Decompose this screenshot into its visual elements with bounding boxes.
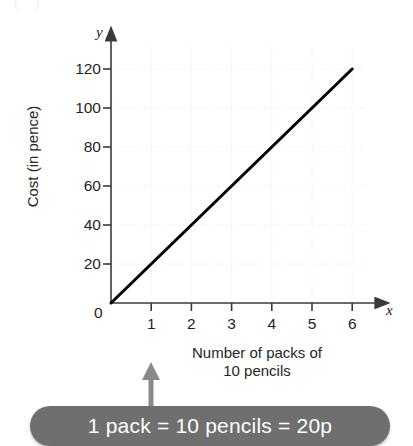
y-tick-labels: 20406080100120 <box>55 0 101 443</box>
x-tick-label-1: 1 <box>139 316 163 332</box>
x-tick-label-4: 4 <box>260 316 284 332</box>
y-tick-label-60: 60 <box>57 178 101 194</box>
origin-label: 0 <box>94 304 103 322</box>
x-axis-title-line-2: 10 pencils <box>152 362 362 380</box>
x-tick-marks <box>151 303 352 311</box>
callout-banner-text: 1 pack = 10 pencils = 20p <box>30 406 390 446</box>
x-tick-label-3: 3 <box>220 316 244 332</box>
y-tick-label-20: 20 <box>57 256 101 272</box>
x-tick-label-6: 6 <box>340 316 364 332</box>
x-axis-title: Number of packs of 10 pencils <box>152 344 362 380</box>
y-tick-label-80: 80 <box>57 139 101 155</box>
y-tick-label-40: 40 <box>57 217 101 233</box>
y-tick-label-120: 120 <box>57 61 101 77</box>
y-tick-label-100: 100 <box>57 100 101 116</box>
callout-banner: 1 pack = 10 pencils = 20p <box>30 406 390 446</box>
x-axis-title-line-1: Number of packs of <box>152 344 362 362</box>
y-tick-marks <box>103 69 111 264</box>
x-tick-label-2: 2 <box>179 316 203 332</box>
x-tick-label-5: 5 <box>300 316 324 332</box>
